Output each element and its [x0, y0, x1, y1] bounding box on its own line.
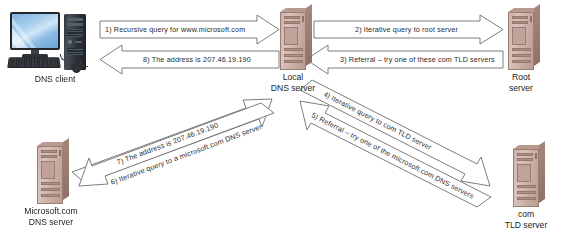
keyboard [7, 57, 61, 68]
tower-vent-lower [67, 48, 83, 55]
tower-optical-bay-2 [67, 23, 83, 26]
arrow-3-label: 3) Referral – try one of these com TLD s… [340, 56, 495, 63]
node-local-dns-server-label: Local DNS server [253, 72, 333, 93]
keyboard-cable [60, 54, 67, 61]
tower-power-button [68, 40, 72, 44]
server-bay-5 [512, 60, 531, 63]
server-led [302, 16, 304, 22]
server-bay-3 [284, 48, 303, 51]
node-root-server-label-line1: Root [481, 72, 561, 83]
node-com-tld-server [513, 149, 539, 207]
server-bay-5 [517, 197, 536, 200]
monitor-screen [12, 14, 58, 48]
node-microsoft-dns-server-label-line1: Microsoft.com [5, 206, 97, 217]
server-led [530, 16, 532, 22]
server-side-face [306, 4, 312, 66]
server-panel-main [517, 164, 531, 182]
server-bay-2 [284, 21, 300, 24]
server-bay-4 [512, 54, 531, 57]
server-bay-5 [284, 60, 303, 63]
node-local-dns-server-label-line1: Local [253, 72, 333, 83]
node-com-tld-server-label-line2: TLD server [486, 220, 566, 231]
arrow-2-label: 2) Iterative query to root server [355, 26, 458, 33]
server-bay-3 [512, 48, 531, 51]
server-bay-4 [517, 191, 536, 194]
node-root-server-label: Root server [481, 72, 561, 93]
server-front-face [280, 12, 306, 70]
arrow-1-label: 1) Recursive query for www.microsoft.com [105, 26, 245, 33]
server-bay-1 [512, 16, 528, 19]
server-bay-1 [41, 150, 57, 153]
server-bay-2 [41, 155, 57, 158]
server-front-face [37, 146, 63, 204]
server-side-face [539, 141, 545, 203]
server-panel-main [512, 27, 526, 45]
node-microsoft-dns-server-label-line2: DNS server [5, 217, 97, 228]
node-root-server-label-line2: server [481, 83, 561, 94]
server-led [59, 150, 61, 156]
node-com-tld-server-label-line1: com [486, 209, 566, 220]
arrow-8-label: 8) The address is 207.46.19.190 [143, 56, 251, 63]
server-front-face [508, 12, 534, 70]
server-bay-2 [517, 158, 533, 161]
dns-resolution-diagram: 1) Recursive query for www.microsoft.com… [0, 0, 575, 244]
server-bay-4 [284, 54, 303, 57]
tower-optical-bay [67, 18, 83, 21]
server-bay-4 [41, 188, 60, 191]
server-panel-main [41, 161, 55, 179]
mouse [72, 62, 81, 73]
server-bay-1 [284, 16, 300, 19]
tower-vent [67, 29, 83, 37]
server-panel-main [284, 27, 298, 45]
server-front-face [513, 149, 539, 207]
node-dns-client [8, 10, 104, 72]
server-side-face [534, 4, 540, 66]
node-microsoft-dns-server-label: Microsoft.com DNS server [5, 206, 97, 227]
server-bay-1 [517, 153, 533, 156]
server-bay-3 [517, 185, 536, 188]
node-dns-client-label: DNS client [0, 74, 110, 85]
server-bay-5 [41, 194, 60, 197]
node-microsoft-dns-server [37, 146, 63, 204]
node-com-tld-server-label: com TLD server [486, 209, 566, 230]
node-local-dns-server [280, 12, 306, 70]
node-root-server [508, 12, 534, 70]
server-bay-3 [41, 182, 60, 185]
node-dns-client-label-line1: DNS client [0, 74, 110, 85]
keyboard-keys [8, 58, 59, 67]
server-bay-2 [512, 21, 528, 24]
server-side-face [63, 138, 69, 200]
tower-port-a [75, 41, 82, 43]
server-led [535, 153, 537, 159]
node-local-dns-server-label-line2: DNS server [253, 83, 333, 94]
